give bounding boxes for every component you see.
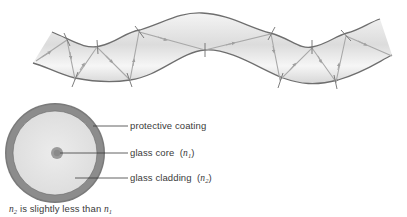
- optical-fiber-diagram: [0, 0, 407, 217]
- caption: n2 is slightly less than n1: [9, 203, 112, 215]
- label-glass-cladding: glass cladding (n2): [130, 172, 212, 184]
- refractive-index-n1: n1: [183, 148, 191, 158]
- refractive-index-n2: n2: [200, 173, 208, 183]
- label-glass-core: glass core (n1): [130, 147, 195, 159]
- label-protective-coating: protective coating: [130, 120, 206, 131]
